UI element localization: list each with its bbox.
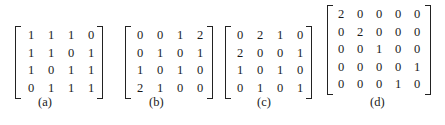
matrix-cell: 1 <box>84 63 98 77</box>
matrix-cell: 0 <box>334 77 348 91</box>
matrix-cell: 1 <box>64 28 78 42</box>
matrix-cell: 0 <box>293 63 307 77</box>
matrix-cell: 0 <box>133 28 147 42</box>
left-bracket <box>225 26 231 99</box>
matrix-cell: 2 <box>193 28 207 42</box>
matrix: 2000002000001000000100010 <box>327 5 431 93</box>
matrix-cell: 0 <box>353 42 367 56</box>
matrix-cell: 0 <box>353 77 367 91</box>
matrix-cell: 0 <box>391 60 405 74</box>
left-bracket <box>327 5 333 95</box>
matrix-cell: 1 <box>293 46 307 60</box>
matrix-cell: 1 <box>24 28 38 42</box>
matrix-cell: 2 <box>233 46 247 60</box>
matrix-cell: 0 <box>372 25 386 39</box>
matrix-cell: 0 <box>410 7 424 21</box>
matrix-cell: 0 <box>173 46 187 60</box>
matrix-cell: 0 <box>410 42 424 56</box>
matrix-cell: 1 <box>391 77 405 91</box>
matrix-cell: 1 <box>273 28 287 42</box>
matrix-cell: 1 <box>410 60 424 74</box>
right-bracket <box>207 26 213 99</box>
matrix-cell: 2 <box>133 81 147 95</box>
matrix-cell: 2 <box>334 7 348 21</box>
matrix-cell: 0 <box>372 7 386 21</box>
matrix-cell: 0 <box>353 60 367 74</box>
matrix: 1110110110110111 <box>15 26 103 97</box>
matrix-cell: 0 <box>233 81 247 95</box>
matrix-cell: 1 <box>84 46 98 60</box>
matrix: 0210200110100101 <box>225 26 312 97</box>
matrix-cell: 0 <box>253 63 267 77</box>
matrix-cell: 1 <box>273 63 287 77</box>
figure-caption: (b) <box>149 95 164 110</box>
matrix-cell: 1 <box>173 63 187 77</box>
matrix-cell: 1 <box>24 63 38 77</box>
matrix-cell: 1 <box>233 63 247 77</box>
figure-caption: (a) <box>38 95 52 110</box>
matrix-cell: 1 <box>133 63 147 77</box>
matrix-cell: 0 <box>253 46 267 60</box>
matrix-cell: 0 <box>372 60 386 74</box>
matrix-cell: 0 <box>334 60 348 74</box>
matrix-cell: 0 <box>353 7 367 21</box>
matrix-cell: 0 <box>293 28 307 42</box>
matrix-cell: 1 <box>193 46 207 60</box>
matrix-cell: 1 <box>44 28 58 42</box>
matrix-cell: 0 <box>84 28 98 42</box>
matrix-cell: 0 <box>153 28 167 42</box>
matrix-cell: 0 <box>273 46 287 60</box>
matrix-cell: 0 <box>410 25 424 39</box>
matrix-cell: 1 <box>293 81 307 95</box>
matrix-cell: 0 <box>334 25 348 39</box>
matrix-cell: 0 <box>133 46 147 60</box>
figure-caption: (d) <box>370 95 385 110</box>
matrix-cell: 1 <box>253 81 267 95</box>
matrix-cell: 1 <box>64 63 78 77</box>
matrix-cell: 2 <box>353 25 367 39</box>
matrix-cell: 1 <box>44 46 58 60</box>
matrix-cell: 1 <box>153 46 167 60</box>
matrix-cell: 1 <box>153 81 167 95</box>
matrix-cell: 0 <box>233 28 247 42</box>
matrix-cell: 0 <box>193 63 207 77</box>
figure-caption: (c) <box>257 95 271 110</box>
left-bracket <box>15 26 21 99</box>
matrix-cell: 0 <box>64 46 78 60</box>
matrix-cell: 1 <box>24 46 38 60</box>
matrix-cell: 1 <box>173 28 187 42</box>
matrix-cell: 1 <box>64 81 78 95</box>
matrix-cell: 0 <box>372 77 386 91</box>
matrix-cell: 0 <box>391 25 405 39</box>
left-bracket <box>125 26 131 99</box>
matrix-cell: 0 <box>410 77 424 91</box>
matrix-cell: 0 <box>391 7 405 21</box>
matrix-cell: 0 <box>273 81 287 95</box>
matrix-cell: 0 <box>153 63 167 77</box>
matrix-cell: 2 <box>253 28 267 42</box>
matrix-cell: 0 <box>193 81 207 95</box>
matrix-cell: 0 <box>173 81 187 95</box>
matrix-cell: 0 <box>334 42 348 56</box>
matrix-cell: 1 <box>44 81 58 95</box>
right-bracket <box>425 5 431 95</box>
matrix: 0012010110102100 <box>125 26 213 97</box>
matrix-cell: 0 <box>391 42 405 56</box>
matrix-cell: 1 <box>372 42 386 56</box>
matrix-cell: 0 <box>24 81 38 95</box>
matrix-cell: 0 <box>44 63 58 77</box>
matrix-cell: 1 <box>84 81 98 95</box>
